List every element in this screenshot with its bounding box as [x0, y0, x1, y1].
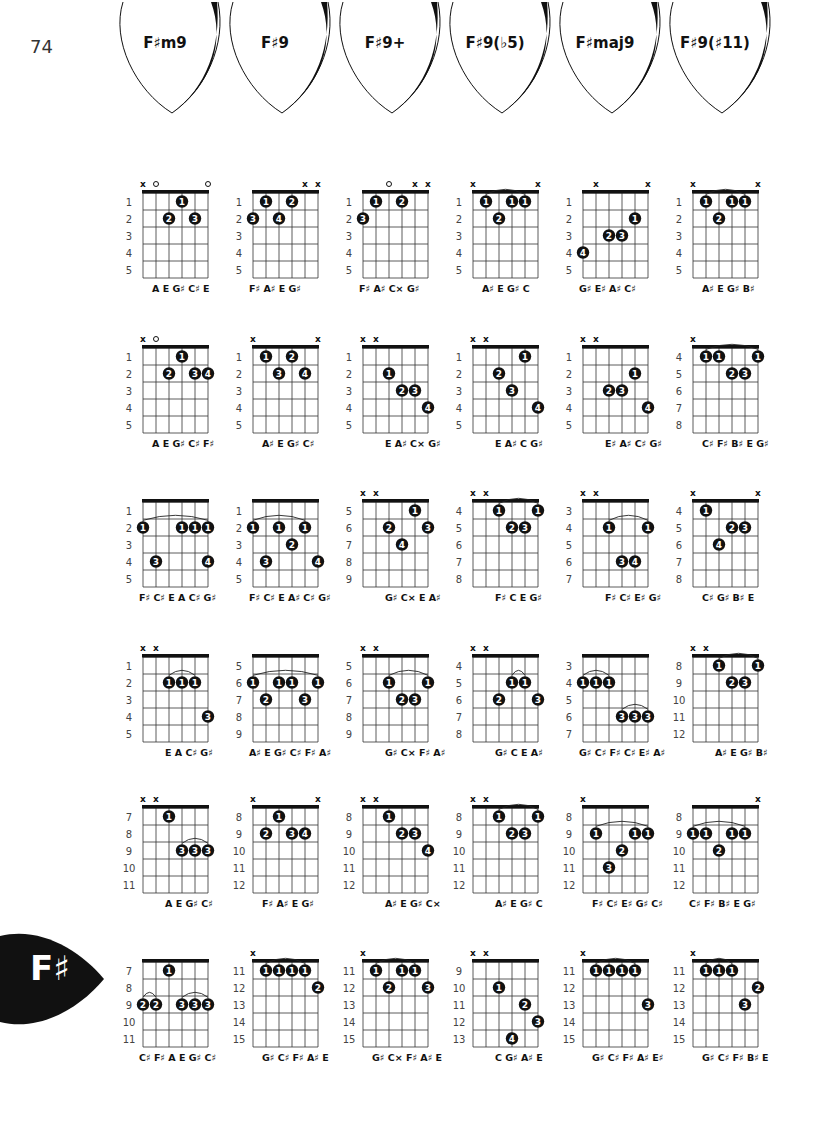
svg-text:x: x	[360, 334, 366, 344]
svg-text:7: 7	[566, 729, 572, 740]
svg-text:2: 2	[496, 214, 502, 224]
svg-text:3: 3	[742, 678, 748, 688]
svg-text:1: 1	[742, 197, 748, 207]
svg-text:1: 1	[276, 523, 282, 533]
svg-text:x: x	[373, 334, 379, 344]
svg-text:1: 1	[166, 812, 172, 822]
chord-diagram: 34567111333G♯ C♯ F♯ C♯ E♯ A♯	[555, 637, 663, 767]
svg-text:2: 2	[399, 829, 405, 839]
pick-outline-icon	[665, 0, 777, 116]
chord-diagram: 12345xx1112A♯ E G♯ C	[445, 173, 553, 303]
svg-text:1: 1	[742, 829, 748, 839]
svg-text:4: 4	[456, 661, 462, 672]
svg-text:1: 1	[716, 966, 722, 976]
svg-text:5: 5	[126, 265, 132, 276]
svg-text:2: 2	[399, 386, 405, 396]
svg-text:14: 14	[233, 1017, 246, 1028]
svg-text:4: 4	[276, 214, 282, 224]
svg-text:1: 1	[302, 966, 308, 976]
fretboard: 45678xx1123	[445, 637, 553, 747]
svg-text:9: 9	[126, 846, 132, 857]
svg-text:9: 9	[236, 729, 242, 740]
svg-text:3: 3	[236, 231, 242, 242]
fretboard: 12345xx1234	[225, 328, 333, 438]
svg-text:x: x	[360, 643, 366, 653]
fretboard: 45678xx1234	[665, 482, 773, 592]
svg-text:4: 4	[205, 369, 211, 379]
svg-text:1: 1	[205, 523, 211, 533]
svg-text:x: x	[425, 179, 431, 189]
svg-text:2: 2	[456, 369, 462, 380]
svg-text:3: 3	[126, 386, 132, 397]
svg-text:4: 4	[566, 403, 572, 414]
fretboard: 45678x11123	[665, 328, 773, 438]
chord-diagram: 1112131415x11113G♯ C♯ F♯ A♯ E♯	[555, 942, 663, 1072]
svg-text:1: 1	[236, 352, 242, 363]
svg-text:x: x	[315, 794, 321, 804]
svg-text:7: 7	[346, 540, 352, 551]
svg-text:3: 3	[742, 369, 748, 379]
svg-text:3: 3	[263, 557, 269, 567]
svg-text:1: 1	[606, 678, 612, 688]
svg-text:3: 3	[566, 386, 572, 397]
fretboard: 12345111234	[225, 482, 333, 592]
svg-text:12: 12	[233, 983, 246, 994]
svg-text:1: 1	[496, 506, 502, 516]
fretboard: 1112131415x11123	[335, 942, 443, 1052]
chord-diagram: 12345xx1234E♯ A♯ C♯ G♯	[555, 328, 663, 458]
svg-text:11: 11	[343, 863, 356, 874]
svg-text:9: 9	[456, 966, 462, 977]
fretboard: 12345x1234	[115, 328, 223, 438]
svg-text:8: 8	[676, 574, 682, 585]
svg-text:1: 1	[373, 966, 379, 976]
svg-text:x: x	[140, 334, 146, 344]
svg-text:x: x	[470, 488, 476, 498]
svg-text:4: 4	[509, 1034, 515, 1044]
svg-text:1: 1	[276, 678, 282, 688]
svg-text:1: 1	[192, 678, 198, 688]
svg-text:11: 11	[563, 863, 576, 874]
svg-text:6: 6	[566, 712, 572, 723]
chord-diagram: 12345xx1112A♯ E G♯ B♯	[665, 173, 773, 303]
svg-text:8: 8	[566, 812, 572, 823]
chord-diagram: 45678xx1234C♯ G♯ B♯ E	[665, 482, 773, 612]
chord-diagram: 89101112xx1234A♯ E G♯ C×	[335, 788, 443, 918]
svg-text:9: 9	[236, 829, 242, 840]
svg-text:15: 15	[343, 1034, 356, 1045]
svg-text:x: x	[483, 643, 489, 653]
svg-text:1: 1	[703, 197, 709, 207]
svg-text:13: 13	[563, 1000, 576, 1011]
svg-text:7: 7	[566, 574, 572, 585]
chord-diagram: 12345xx1234E A♯ C× G♯	[335, 328, 443, 458]
svg-text:9: 9	[566, 829, 572, 840]
svg-text:1: 1	[593, 829, 599, 839]
chord-notes: G♯ C♯ F♯ C♯ E♯ A♯	[579, 747, 679, 758]
svg-text:1: 1	[716, 352, 722, 362]
svg-text:1: 1	[729, 829, 735, 839]
svg-text:x: x	[483, 948, 489, 958]
svg-text:3: 3	[619, 712, 625, 722]
svg-text:4: 4	[566, 678, 572, 689]
svg-text:5: 5	[236, 265, 242, 276]
svg-text:3: 3	[236, 386, 242, 397]
svg-text:3: 3	[425, 983, 431, 993]
svg-text:x: x	[412, 179, 418, 189]
svg-text:x: x	[703, 643, 709, 653]
svg-text:2: 2	[386, 983, 392, 993]
svg-text:4: 4	[126, 248, 132, 259]
svg-text:x: x	[690, 643, 696, 653]
fretboard: 910111213xx1234	[445, 942, 553, 1052]
svg-text:1: 1	[566, 352, 572, 363]
svg-text:1: 1	[399, 966, 405, 976]
svg-text:5: 5	[566, 695, 572, 706]
svg-text:4: 4	[126, 557, 132, 568]
svg-text:5: 5	[676, 369, 682, 380]
svg-text:6: 6	[456, 695, 462, 706]
chord-notes: G♯ E♯ A♯ C♯	[579, 283, 679, 294]
svg-text:4: 4	[632, 557, 638, 567]
svg-text:6: 6	[346, 523, 352, 534]
chord-name: F♯9+	[335, 34, 435, 52]
svg-text:2: 2	[263, 695, 269, 705]
svg-text:2: 2	[289, 352, 295, 362]
svg-text:1: 1	[276, 812, 282, 822]
